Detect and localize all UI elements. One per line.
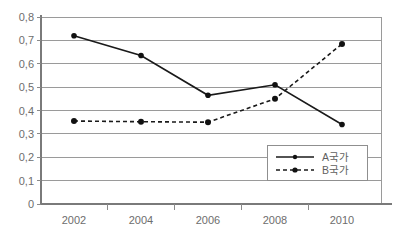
data-point	[138, 119, 144, 125]
y-axis-tick-labels: 0,8 0,7 0,6 0,5 0,4 0,3 0,2 0,1 0	[19, 11, 34, 210]
legend-label-series-a: A국가	[322, 151, 349, 163]
legend-marker-series-b	[292, 167, 297, 172]
y-tick-label: 0,6	[19, 58, 34, 70]
x-tick-label: 2002	[62, 214, 86, 226]
x-axis-tick-labels: 2002 2004 2006 2008 2010	[62, 214, 354, 226]
data-point	[272, 82, 278, 88]
data-point	[205, 93, 211, 99]
legend-marker-series-a	[293, 155, 297, 159]
y-tick-label: 0,7	[19, 34, 34, 46]
data-point	[205, 119, 211, 125]
data-point	[71, 33, 77, 39]
legend-box	[268, 146, 368, 181]
chart-canvas: 0,8 0,7 0,6 0,5 0,4 0,3 0,2 0,1 0 2002 2…	[0, 0, 402, 237]
y-tick-label: 0,4	[19, 105, 34, 117]
data-point	[339, 41, 345, 47]
x-tick-label: 2008	[263, 214, 287, 226]
data-point	[138, 53, 144, 59]
legend-label-series-b: B국가	[322, 164, 349, 176]
data-point	[339, 122, 345, 128]
y-tick-label: 0,1	[19, 175, 34, 187]
x-tick-marks	[107, 204, 308, 210]
x-tick-label: 2006	[196, 214, 220, 226]
x-tick-label: 2010	[330, 214, 354, 226]
y-tick-label: 0,3	[19, 128, 34, 140]
data-point	[272, 96, 278, 102]
series-layer	[71, 33, 345, 127]
data-point	[71, 118, 77, 124]
chart-legend: A국가 B국가	[268, 146, 368, 181]
y-tick-label: 0,2	[19, 151, 34, 163]
y-tick-label: 0,5	[19, 81, 34, 93]
x-tick-label: 2004	[129, 214, 153, 226]
y-tick-label: 0,8	[19, 11, 34, 23]
line-chart: 0,8 0,7 0,6 0,5 0,4 0,3 0,2 0,1 0 2002 2…	[0, 0, 402, 237]
y-tick-label: 0	[28, 198, 34, 210]
series-line-a	[74, 36, 342, 125]
